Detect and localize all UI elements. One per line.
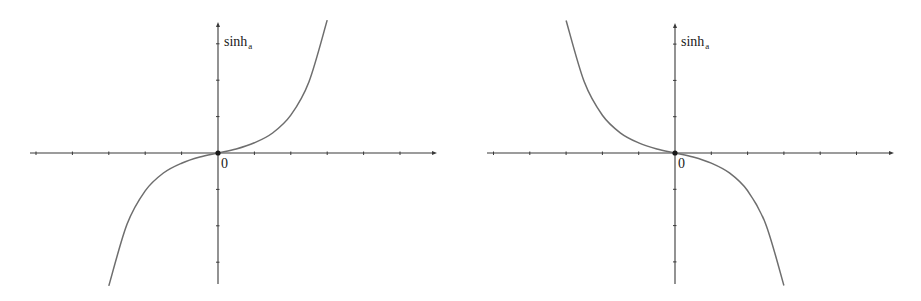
right-origin-label: 0	[678, 157, 685, 171]
plots-svg	[0, 0, 921, 301]
origin-point	[215, 150, 220, 155]
x-axis-arrow-icon	[432, 151, 437, 155]
right-function-name: sinh	[681, 34, 704, 49]
left-panel	[30, 20, 437, 286]
left-origin-label: 0	[221, 157, 228, 171]
right-function-label: sinha	[681, 35, 709, 49]
origin-point	[672, 150, 677, 155]
left-function-label: sinha	[224, 35, 252, 49]
figure: sinha 0 sinha 0	[0, 0, 921, 301]
x-axis-arrow-icon	[889, 151, 894, 155]
y-axis-arrow-icon	[673, 23, 677, 28]
y-axis-arrow-icon	[216, 22, 220, 27]
right-function-subscript: a	[705, 41, 709, 51]
left-function-name: sinh	[224, 34, 247, 49]
left-function-subscript: a	[248, 41, 252, 51]
right-panel	[487, 21, 894, 286]
